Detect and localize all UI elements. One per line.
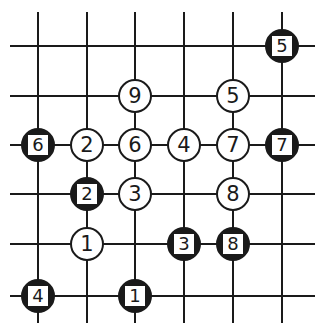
white-stone: 1 [70, 227, 104, 261]
stone-move-number: 8 [226, 184, 239, 205]
white-stone: 2 [70, 128, 104, 162]
stone-move-number: 3 [128, 184, 141, 205]
grid-line-horizontal [10, 193, 315, 195]
stone-move-number: 1 [80, 234, 93, 255]
stone-move-number: 6 [28, 135, 48, 155]
black-stone: 4 [21, 279, 55, 313]
white-stone: 6 [118, 128, 152, 162]
stone-move-number: 9 [128, 86, 141, 107]
black-stone: 2 [70, 177, 104, 211]
stone-move-number: 2 [80, 135, 93, 156]
grid-line-vertical [86, 12, 88, 323]
grid-line-horizontal [10, 243, 315, 245]
grid-line-horizontal [10, 295, 315, 297]
stone-move-number: 4 [177, 135, 190, 156]
grid-line-horizontal [10, 95, 315, 97]
white-stone: 8 [216, 177, 250, 211]
white-stone: 7 [216, 128, 250, 162]
white-stone: 5 [216, 79, 250, 113]
grid-line-vertical [232, 12, 234, 323]
stone-move-number: 7 [272, 135, 292, 155]
grid-line-vertical [134, 12, 136, 323]
stone-move-number: 6 [128, 135, 141, 156]
stone-move-number: 7 [226, 135, 239, 156]
stone-move-number: 3 [174, 234, 194, 254]
grid-line-vertical [183, 12, 185, 323]
white-stone: 3 [118, 177, 152, 211]
stone-move-number: 8 [223, 234, 243, 254]
stone-move-number: 4 [28, 286, 48, 306]
stone-move-number: 2 [77, 184, 97, 204]
stone-move-number: 5 [226, 86, 239, 107]
black-stone: 1 [118, 279, 152, 313]
black-stone: 8 [216, 227, 250, 261]
black-stone: 5 [265, 29, 299, 63]
white-stone: 9 [118, 79, 152, 113]
grid-line-vertical [37, 12, 39, 323]
black-stone: 6 [21, 128, 55, 162]
black-stone: 7 [265, 128, 299, 162]
white-stone: 4 [167, 128, 201, 162]
black-stone: 3 [167, 227, 201, 261]
stone-move-number: 5 [272, 36, 292, 56]
go-board-diagram: 59562647723813841 [0, 0, 327, 335]
stone-move-number: 1 [125, 286, 145, 306]
